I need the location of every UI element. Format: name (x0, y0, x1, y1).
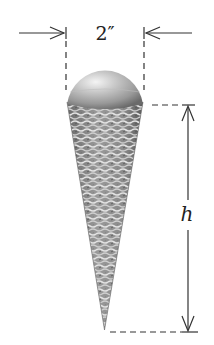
sphere-scoop (67, 70, 143, 109)
height-label: h (181, 202, 194, 226)
width-label: 2″ (95, 22, 114, 44)
waffle-cone (60, 98, 150, 334)
cone-diagram: 2″ h (0, 0, 214, 345)
